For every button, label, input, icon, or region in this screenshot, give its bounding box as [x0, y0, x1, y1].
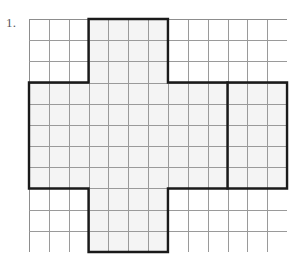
- worksheet-page: 1.: [0, 0, 302, 259]
- net-figure-outline: [29, 19, 287, 252]
- graph-paper-grid: [29, 19, 287, 252]
- problem-number-label: 1.: [6, 16, 16, 29]
